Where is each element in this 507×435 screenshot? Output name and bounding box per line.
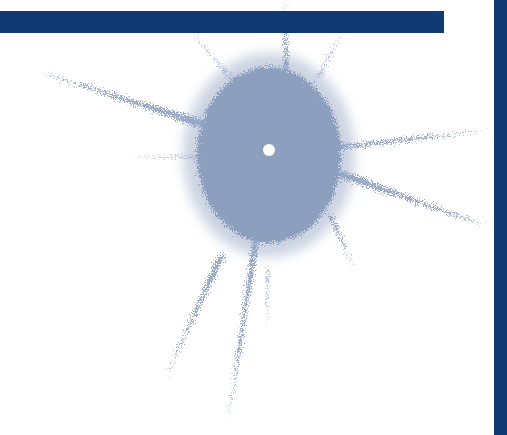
horizontal-navy-bar [0, 11, 444, 33]
splat-ray [340, 130, 492, 149]
splat-illustration [0, 0, 507, 435]
splat-ray [228, 240, 259, 420]
ink-splat-graphic [0, 0, 507, 435]
splat-ray [317, 25, 345, 79]
splat-ray [163, 254, 225, 382]
vertical-navy-bar [494, 0, 507, 435]
splat-ray [267, 270, 270, 330]
center-dot [263, 144, 275, 156]
splat-ray [334, 168, 492, 228]
